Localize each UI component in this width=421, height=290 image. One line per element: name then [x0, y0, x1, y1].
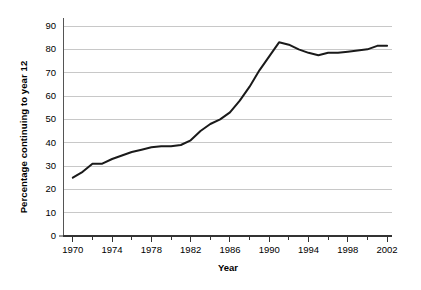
x-tick-label: 1978 [129, 245, 173, 255]
y-tick-label: 70 [30, 68, 56, 78]
axis-lines [63, 18, 392, 236]
y-tick-label: 80 [30, 44, 56, 54]
y-tick-label: 90 [30, 21, 56, 31]
y-tick-label: 20 [30, 184, 56, 194]
x-tick-label: 1986 [208, 245, 252, 255]
x-tick-label: 1990 [247, 245, 291, 255]
tick-marks [59, 236, 387, 242]
x-tick-label: 1998 [326, 245, 370, 255]
x-tick-label: 1970 [51, 245, 95, 255]
x-tick-label: 1982 [169, 245, 213, 255]
line-chart: Percentage continuing to year 12 0102030… [0, 0, 421, 290]
gridlines [63, 26, 392, 213]
y-tick-label: 60 [30, 91, 56, 101]
y-tick-label: 10 [30, 208, 56, 218]
y-tick-label: 0 [30, 231, 56, 241]
x-tick-label: 2002 [365, 245, 409, 255]
y-tick-label: 30 [30, 161, 56, 171]
x-axis-title: Year [63, 262, 393, 274]
x-tick-label: 1994 [287, 245, 331, 255]
x-tick-label: 1974 [90, 245, 134, 255]
y-tick-label: 40 [30, 138, 56, 148]
y-tick-label: 50 [30, 114, 56, 124]
data-series [73, 42, 387, 177]
